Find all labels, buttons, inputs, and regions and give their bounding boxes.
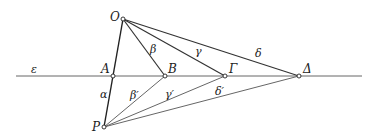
label-beta-prime: β′ <box>129 89 139 102</box>
point-O <box>121 17 125 21</box>
point-P <box>102 125 106 129</box>
point-Gamma <box>223 74 227 78</box>
point-B <box>163 74 167 78</box>
point-A <box>111 74 115 78</box>
label-B: B <box>167 62 177 76</box>
label-A: A <box>100 62 110 76</box>
label-P: P <box>91 120 101 134</box>
label-Delta: Δ <box>302 62 312 76</box>
ray-P-Gamma-gamma-prime <box>104 76 225 127</box>
perspective-diagram: O A B Γ Δ P ε α β γ δ β′ γ′ δ′ <box>0 0 378 135</box>
label-gamma: γ <box>195 45 202 58</box>
label-alpha: α <box>100 88 108 101</box>
label-gamma-prime: γ′ <box>165 88 175 101</box>
label-epsilon: ε <box>31 63 37 76</box>
label-beta: β <box>149 43 156 56</box>
ray-O-B-beta <box>123 19 165 76</box>
label-delta-prime: δ′ <box>215 85 225 98</box>
diagram-canvas: O A B Γ Δ P ε α β γ δ β′ γ′ δ′ <box>0 0 378 135</box>
label-O: O <box>110 10 120 24</box>
label-delta: δ <box>255 47 262 60</box>
point-Delta <box>297 74 301 78</box>
label-Gamma: Γ <box>228 62 238 76</box>
